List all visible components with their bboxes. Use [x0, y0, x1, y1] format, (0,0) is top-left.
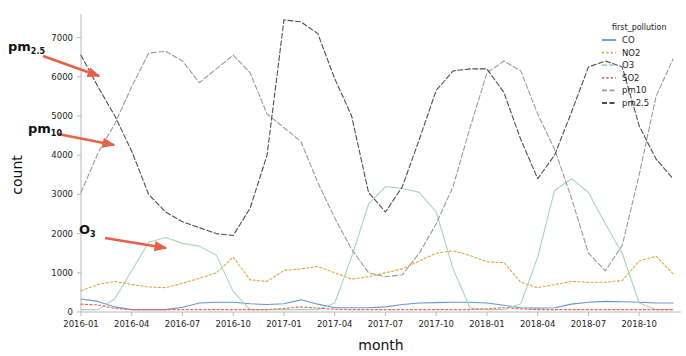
y-tick-label: 0 — [68, 307, 73, 317]
pm10-annotation-label: pm10 — [28, 121, 62, 138]
y-axis-ticks: 01000200030004000500060007000 — [51, 33, 81, 317]
x-tick-label: 2018-07 — [571, 319, 607, 329]
pm25-annotation-label: pm2.5 — [8, 39, 45, 56]
x-tick-label: 2017-07 — [368, 319, 404, 329]
y-tick-label: 7000 — [51, 33, 73, 43]
x-tick-label: 2016-04 — [114, 319, 150, 329]
plot-background — [81, 14, 681, 312]
legend-label-o3[interactable]: O3 — [622, 60, 634, 70]
x-tick-label: 2018-01 — [469, 319, 505, 329]
x-tick-label: 2017-10 — [418, 319, 454, 329]
x-tick-label: 2017-01 — [266, 319, 302, 329]
x-tick-label: 2016-10 — [215, 319, 251, 329]
x-tick-label: 2018-10 — [621, 319, 657, 329]
y-tick-label: 1000 — [51, 268, 73, 278]
legend-label-co[interactable]: CO — [622, 35, 635, 45]
x-axis-ticks: 2016-012016-042016-072016-102017-012017-… — [63, 312, 657, 329]
y-tick-label: 4000 — [51, 150, 73, 160]
chart-figure: 01000200030004000500060007000 2016-01201… — [0, 0, 686, 356]
line-chart: 01000200030004000500060007000 2016-01201… — [0, 0, 686, 356]
y-tick-label: 3000 — [51, 189, 73, 199]
x-tick-label: 2018-04 — [520, 319, 556, 329]
legend-label-no2[interactable]: NO2 — [622, 48, 640, 58]
y-tick-label: 6000 — [51, 72, 73, 82]
legend-label-so2[interactable]: SO2 — [622, 73, 640, 83]
x-tick-label: 2017-04 — [317, 319, 353, 329]
x-tick-label: 2016-07 — [165, 319, 201, 329]
legend-label-pm2-5[interactable]: pm2.5 — [622, 98, 649, 108]
x-tick-label: 2016-01 — [63, 319, 99, 329]
y-tick-label: 5000 — [51, 111, 73, 121]
legend-label-pm10[interactable]: pm10 — [622, 85, 647, 95]
legend-title: first_pollution — [612, 23, 666, 32]
y-tick-label: 2000 — [51, 229, 73, 239]
y-axis-title: count — [9, 155, 25, 195]
x-axis-title: month — [358, 337, 403, 353]
